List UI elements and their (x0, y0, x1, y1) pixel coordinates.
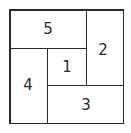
outer-border-top (9, 9, 124, 11)
divider-horizontal-1-3 (47, 85, 125, 87)
outer-border-left (9, 9, 11, 124)
divider-horizontal-5-4 (9, 48, 87, 50)
outer-border-right (123, 9, 125, 124)
region-label-4: 4 (23, 78, 33, 93)
region-label-2: 2 (98, 43, 108, 58)
region-label-1: 1 (62, 60, 72, 75)
region-label-5: 5 (43, 22, 53, 37)
partitioned-square-diagram: 5 2 1 4 3 (0, 0, 131, 133)
outer-border-bottom (9, 123, 124, 125)
region-label-3: 3 (81, 98, 91, 113)
